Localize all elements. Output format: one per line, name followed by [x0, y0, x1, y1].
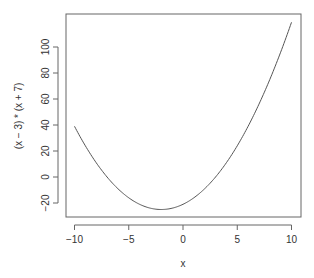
y-tick-label: 40	[40, 119, 51, 131]
y-tick-label: 20	[40, 145, 51, 157]
plot-box	[66, 14, 301, 217]
x-tick-label: −10	[66, 234, 83, 245]
y-tick-label: −20	[40, 194, 51, 211]
y-tick-label: 80	[40, 67, 51, 79]
plot: −10−50510 −20020406080100 x (x − 3) * (x…	[0, 0, 314, 278]
x-tick-label: 5	[234, 234, 240, 245]
x-axis: −10−50510	[66, 225, 297, 245]
x-axis-title: x	[181, 258, 186, 269]
x-tick-label: 0	[180, 234, 186, 245]
function-curve	[75, 22, 292, 209]
y-axis-title: (x − 3) * (x + 7)	[13, 83, 24, 150]
y-tick-label: 60	[40, 93, 51, 105]
y-tick-label: 100	[40, 38, 51, 55]
x-tick-label: 10	[286, 234, 298, 245]
y-tick-label: 0	[40, 174, 51, 180]
y-axis: −20020406080100	[40, 38, 58, 211]
x-tick-label: −5	[123, 234, 135, 245]
